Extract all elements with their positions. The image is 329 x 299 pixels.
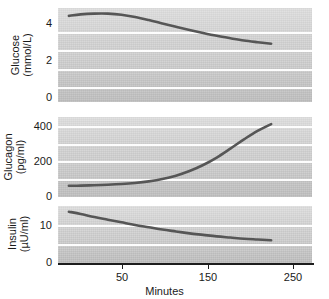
series-line-glucose: [69, 14, 271, 44]
panel-glucagon: 400 200 0 Glucagon (pg/ml): [0, 104, 329, 196]
panel-insulin: 10 0 Insulin (µU/ml) 50 150 250 Minutes: [0, 196, 329, 299]
ylabel-insulin-line2: (µU/ml): [18, 194, 30, 274]
series-line-insulin: [69, 212, 271, 241]
figure-root: 4 2 0 Glucose (mmol/L) 400 200 0 Glucago…: [0, 0, 329, 299]
ytick-glucose-2: 2: [30, 55, 52, 66]
xtickmark-250: [293, 265, 294, 269]
xtickmark-50: [122, 265, 123, 269]
ylabel-glucose-line2: (mmol/L): [21, 15, 33, 95]
curve-insulin: [58, 206, 312, 263]
ytick-glucose-0: 0: [30, 92, 52, 103]
xtickmark-150: [208, 265, 209, 269]
xlabel-minutes: Minutes: [0, 286, 329, 297]
plot-area-glucagon: [58, 117, 312, 197]
x-axis-spine: [58, 263, 314, 265]
plot-area-insulin: [58, 206, 312, 263]
ytick-glucose-4: 4: [30, 18, 52, 29]
curve-glucagon: [58, 117, 312, 197]
plot-area-glucose: [58, 8, 312, 102]
ylabel-glucose-line1: Glucose: [9, 15, 21, 95]
curve-glucose: [58, 8, 312, 102]
xtick-150: 150: [188, 272, 228, 283]
ylabel-glucagon-line1: Glucagon: [2, 117, 14, 197]
panel-glucose: 4 2 0 Glucose (mmol/L): [0, 0, 329, 104]
xtick-250: 250: [273, 272, 313, 283]
xtick-50: 50: [102, 272, 142, 283]
ylabel-glucagon-line2: (pg/ml): [14, 117, 26, 197]
series-line-glucagon: [69, 124, 271, 186]
ylabel-insulin-line1: Insulin: [6, 194, 18, 274]
